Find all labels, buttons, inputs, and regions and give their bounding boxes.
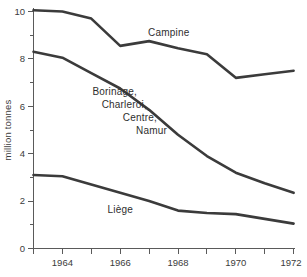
series-label-liege: Liège <box>108 204 134 215</box>
x-tick-label-1970: 1970 <box>225 257 246 268</box>
series-label-campine: Campine <box>148 27 190 38</box>
series-line-borinage-charleroi-centre-namur <box>34 52 294 193</box>
series-label-namur: Namur <box>136 125 167 136</box>
y-axis-title: million tonnes <box>2 100 13 161</box>
x-tick-label-1972: 1972 <box>280 257 301 268</box>
line-chart: 0 2 4 6 8 10 million tonnes 1964 1966 19… <box>0 0 307 277</box>
y-tick-label-8: 8 <box>20 53 25 64</box>
y-tick-label-2: 2 <box>20 195 25 206</box>
series-label-borinage: Borinage, <box>92 86 137 97</box>
y-tick-label-6: 6 <box>20 101 25 112</box>
y-tick-label-4: 4 <box>20 148 25 159</box>
x-tick-label-1968: 1968 <box>167 257 188 268</box>
y-tick-label-0: 0 <box>20 243 25 254</box>
y-tick-label-10: 10 <box>14 6 25 17</box>
series-line-liege <box>34 175 294 224</box>
series-label-centre: Centre, <box>123 112 157 123</box>
series-line-campine <box>34 10 294 78</box>
chart-canvas: 0 2 4 6 8 10 million tonnes 1964 1966 19… <box>0 0 307 277</box>
x-tick-label-1966: 1966 <box>110 257 131 268</box>
x-tick-label-1964: 1964 <box>52 257 73 268</box>
series-label-charleroi: Charleroi, <box>102 99 147 110</box>
